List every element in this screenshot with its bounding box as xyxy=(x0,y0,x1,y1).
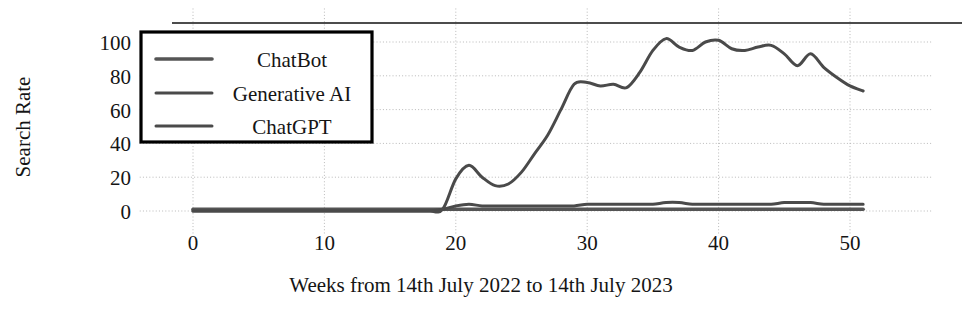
y-tick-label-40: 40 xyxy=(110,132,131,156)
y-tick-label-60: 60 xyxy=(110,99,131,123)
y-axis-title: Search Rate xyxy=(11,77,35,178)
y-axis-tick-labels: 020406080100 xyxy=(100,31,132,224)
y-tick-label-100: 100 xyxy=(100,31,132,55)
x-axis-title: Weeks from 14th July 2022 to 14th July 2… xyxy=(289,273,672,297)
x-tick-label-20: 20 xyxy=(445,231,466,255)
x-tick-label-50: 50 xyxy=(840,231,861,255)
y-tick-label-0: 0 xyxy=(121,200,132,224)
y-tick-label-80: 80 xyxy=(110,65,131,89)
x-tick-label-0: 0 xyxy=(188,231,199,255)
legend-label-chatgpt: ChatGPT xyxy=(252,115,332,139)
legend: ChatBotGenerative AIChatGPT xyxy=(141,32,372,142)
chart-figure: 01020304050 020406080100 Weeks from 14th… xyxy=(0,0,962,310)
legend-label-generative-ai: Generative AI xyxy=(233,82,351,106)
x-tick-label-40: 40 xyxy=(708,231,729,255)
x-axis-tick-labels: 01020304050 xyxy=(188,231,861,255)
y-tick-label-20: 20 xyxy=(110,166,131,190)
search-rate-line-chart: 01020304050 020406080100 Weeks from 14th… xyxy=(0,0,962,310)
x-tick-label-30: 30 xyxy=(577,231,598,255)
x-tick-label-10: 10 xyxy=(314,231,335,255)
legend-label-chatbot: ChatBot xyxy=(257,48,327,72)
